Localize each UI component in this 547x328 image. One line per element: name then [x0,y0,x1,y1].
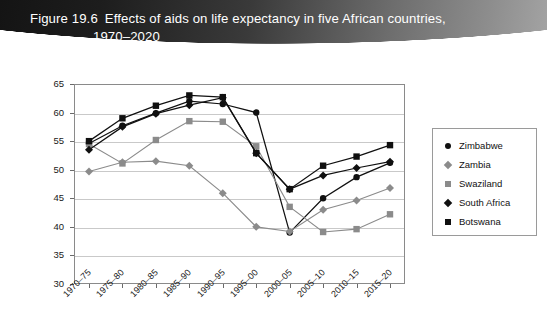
gridline [75,256,404,257]
x-tick-mark [156,284,157,288]
figure-caption: Figure 19.6Effects of aids on life expec… [30,10,530,46]
legend-item-zimbabwe[interactable]: Zimbabwe [441,136,536,155]
y-tick-mark [70,198,74,199]
y-tick-label: 35 [38,249,64,260]
x-tick-mark [89,284,90,288]
y-tick-label: 55 [38,135,64,146]
square-marker-icon [441,181,455,187]
legend-item-label: Swaziland [459,178,502,189]
gridline [75,171,404,172]
y-tick-label: 45 [38,192,64,203]
figure-title-line1: Effects of aids on life expectancy in fi… [105,11,446,26]
x-tick-mark [223,284,224,288]
y-tick-mark [70,255,74,256]
y-tick-mark [70,141,74,142]
legend-item-swaziland[interactable]: Swaziland [441,174,536,193]
chart-legend: ZimbabweZambiaSwazilandSouth AfricaBotsw… [432,128,537,236]
square-marker-icon [441,219,455,225]
y-tick-mark [70,227,74,228]
legend-item-label: Botswana [459,216,501,227]
x-tick-mark [290,284,291,288]
figure-title-line2: 1970–2020 [93,28,530,46]
figure-number: Figure 19.6 [30,11,98,26]
legend-item-label: South Africa [459,197,510,208]
y-tick-label: 40 [38,221,64,232]
legend-item-south-africa[interactable]: South Africa [441,193,536,212]
y-tick-mark [70,170,74,171]
gridline [75,142,404,143]
y-tick-label: 65 [38,78,64,89]
gridline [75,228,404,229]
legend-item-label: Zambia [459,159,491,170]
legend-item-zambia[interactable]: Zambia [441,155,536,174]
y-tick-mark [70,84,74,85]
gridline [75,114,404,115]
x-tick-mark [189,284,190,288]
x-tick-mark [357,284,358,288]
figure-banner: Figure 19.6Effects of aids on life expec… [0,0,547,82]
x-tick-mark [390,284,391,288]
circle-marker-icon [441,143,455,149]
y-tick-mark [70,113,74,114]
x-tick-mark [256,284,257,288]
x-tick-mark [323,284,324,288]
plot-area [74,84,405,284]
legend-item-botswana[interactable]: Botswana [441,212,536,231]
y-tick-label: 30 [38,278,64,289]
y-tick-label: 50 [38,164,64,175]
legend-item-label: Zimbabwe [459,140,503,151]
diamond-marker-icon [441,162,455,168]
y-tick-label: 60 [38,107,64,118]
gridline [75,199,404,200]
figure-container: Figure 19.6Effects of aids on life expec… [0,0,547,328]
x-tick-mark [122,284,123,288]
diamond-marker-icon [441,200,455,206]
